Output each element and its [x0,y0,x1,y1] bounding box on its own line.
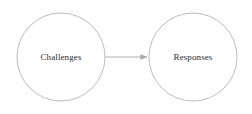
node-circle-challenges[interactable] [17,13,105,101]
diagram-canvas: Challenges Responses [0,0,252,114]
diagram-graphics [0,0,252,114]
node-circle-responses[interactable] [149,13,237,101]
